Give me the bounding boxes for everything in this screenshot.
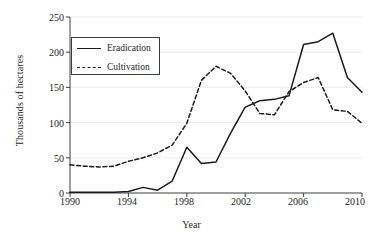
dashed-line-icon: [77, 62, 101, 71]
legend-label: Eradication: [107, 43, 151, 53]
legend-item-cultivation: Cultivation: [72, 57, 159, 76]
y-axis-ticks: [66, 17, 70, 193]
line-chart: Thousands of hectares 0 50 100 150 200 2…: [0, 0, 383, 242]
series-line-cultivation: [70, 66, 362, 167]
x-axis-ticks: [70, 193, 362, 197]
solid-line-icon: [77, 43, 101, 52]
legend-item-eradication: Eradication: [72, 38, 159, 57]
legend: Eradication Cultivation: [71, 37, 160, 75]
legend-label: Cultivation: [107, 62, 150, 72]
plot-area: [0, 0, 383, 242]
